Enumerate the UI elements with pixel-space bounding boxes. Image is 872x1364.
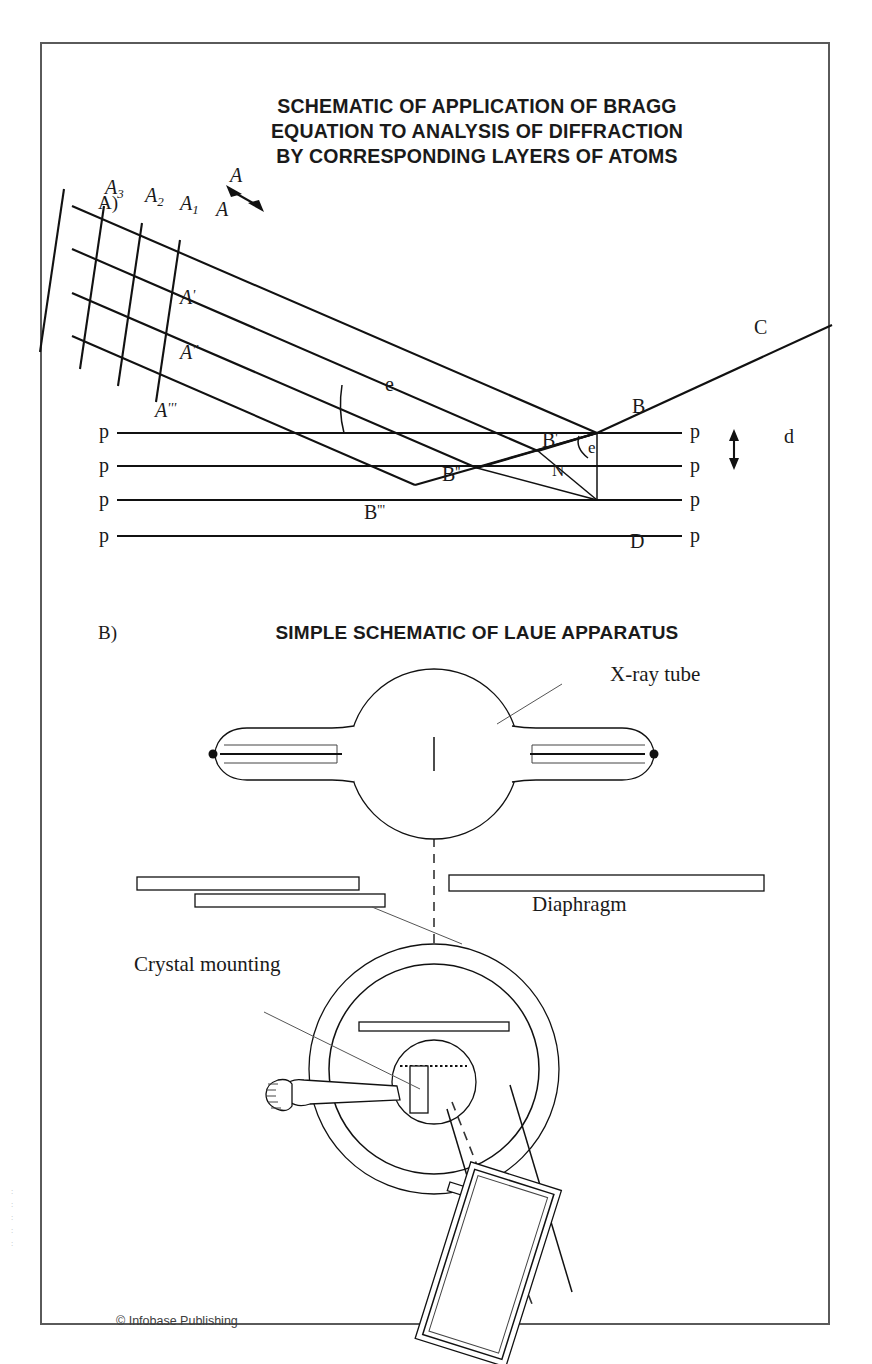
diaphragm-label: Diaphragm (532, 894, 626, 915)
xray-tube-leader (497, 684, 562, 724)
plane-label-right-2: p (690, 455, 700, 475)
incident-beam-label: A (230, 165, 242, 185)
wavefront-label-a1: A1 (180, 193, 199, 216)
crystal-mounting-label: Crystal mounting (134, 954, 280, 975)
reflection-point-b-double-prime: B'' (442, 464, 460, 484)
plane-label-right-4: p (690, 525, 700, 545)
outgoing-beam-label: C (754, 317, 767, 337)
reflection-point-b: B (632, 396, 645, 416)
wavefronts (40, 189, 180, 402)
interplanar-spacing-label: d (784, 426, 794, 446)
incident-rays (72, 206, 597, 485)
ray-label-a-prime: A' (180, 287, 195, 307)
drop-point-label: D (630, 531, 644, 551)
plane-label-left-4: p (99, 525, 109, 545)
wavefront-label-a3: A3 (105, 177, 124, 200)
xray-tube-label: X-ray tube (610, 664, 700, 685)
plane-label-left-3: p (99, 489, 109, 509)
plane-label-right-1: p (690, 421, 700, 441)
diaphragm (137, 875, 764, 907)
normal-foot-label: N (552, 462, 564, 479)
angle-at-b-label: e (588, 439, 596, 456)
copyright-credit: © Infobase Publishing (116, 1314, 238, 1328)
figure-frame: SCHEMATIC OF APPLICATION OF BRAGG EQUATI… (40, 42, 830, 1325)
crystal-specimen (410, 1066, 428, 1113)
xray-tube (209, 669, 659, 839)
incidence-angle-label: e (385, 374, 394, 394)
reflection-point-b-prime: B' (542, 430, 558, 450)
plane-label-right-3: p (690, 489, 700, 509)
ray-label-a-double-prime: A'' (180, 342, 198, 362)
wavefront-label-a2: A2 (145, 185, 164, 208)
interplanar-spacing-arrow (729, 429, 739, 470)
page-edge-marks: ::::: (4, 1185, 20, 1250)
incident-beam-arrow (226, 185, 264, 212)
ray-label-a-triple-prime: A''' (155, 400, 176, 420)
wavefront-label-a: A (216, 199, 228, 219)
plane-label-left-1: p (99, 421, 109, 441)
plane-label-left-2: p (99, 455, 109, 475)
diaphragm-leader (372, 907, 462, 944)
goniometer (266, 944, 559, 1194)
reflection-point-b-triple-prime: B''' (364, 502, 385, 522)
reflected-rays (415, 325, 832, 485)
bragg-diagram (42, 44, 832, 564)
